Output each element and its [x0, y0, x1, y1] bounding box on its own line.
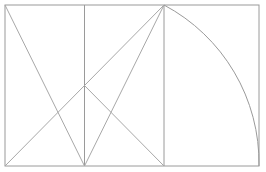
diagonal-top-square-right-to-bottom-mid — [85, 5, 165, 166]
diagonal-top-left-to-bottom-mid — [5, 5, 85, 166]
diagram-root — [0, 0, 266, 172]
diagonal-center-to-bottom-square-right — [85, 86, 165, 167]
construction-svg — [0, 0, 266, 172]
outer-rectangle — [5, 5, 259, 166]
quarter-arc — [164, 5, 259, 166]
